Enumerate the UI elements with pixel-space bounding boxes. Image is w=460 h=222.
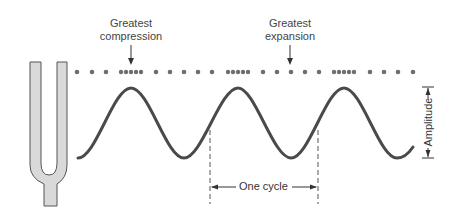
greatest-expansion-label: Greatest expansion — [240, 17, 340, 43]
sine-wave — [78, 88, 413, 158]
tuning-fork-icon — [30, 62, 67, 206]
sound-wave-diagram: Greatest compression Greatest expansion … — [0, 0, 460, 222]
label-line: Greatest — [72, 17, 190, 30]
one-cycle-label: One cycle — [237, 180, 290, 193]
label-line: expansion — [240, 30, 340, 43]
greatest-compression-label: Greatest compression — [72, 17, 190, 43]
label-line: compression — [72, 30, 190, 43]
amplitude-label: Amplitude — [422, 99, 435, 147]
particle-dots — [75, 70, 416, 75]
label-line: Greatest — [240, 17, 340, 30]
pointer-arrows — [128, 45, 293, 65]
diagram-svg — [0, 0, 460, 222]
